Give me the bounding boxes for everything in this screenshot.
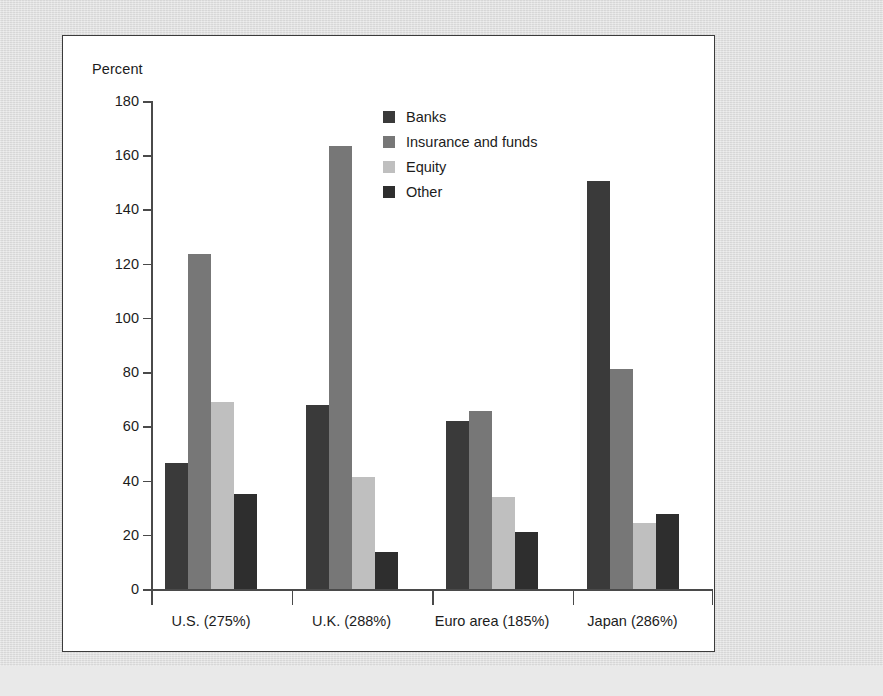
- bar-banks-0[interactable]: [165, 463, 188, 589]
- bar-group: [587, 101, 679, 589]
- y-axis-line: [151, 101, 153, 589]
- legend-label: Equity: [406, 159, 446, 175]
- x-axis-category-label: Euro area (185%): [435, 613, 549, 629]
- x-axis-separator-tick: [292, 590, 294, 605]
- bar-banks-3[interactable]: [587, 181, 610, 589]
- bar-other-2[interactable]: [515, 532, 538, 589]
- y-axis-tick-label: 40: [123, 473, 139, 489]
- bar-insurance-and-funds-2[interactable]: [469, 411, 492, 589]
- legend-swatch-icon: [383, 136, 395, 148]
- x-axis-separator-tick: [712, 590, 714, 605]
- x-axis-category-label: Japan (286%): [587, 613, 677, 629]
- y-axis-tick-mark: [143, 535, 151, 537]
- bar-group: [165, 101, 257, 589]
- y-axis-tick-mark: [143, 589, 151, 591]
- bar-banks-2[interactable]: [446, 421, 469, 589]
- legend-item[interactable]: Equity: [383, 154, 537, 179]
- legend-label: Other: [406, 184, 442, 200]
- bar-equity-2[interactable]: [492, 497, 515, 589]
- chart-legend: BanksInsurance and fundsEquityOther: [383, 104, 537, 204]
- bar-insurance-and-funds-3[interactable]: [610, 369, 633, 589]
- y-axis-tick-mark: [143, 372, 151, 374]
- bar-equity-3[interactable]: [633, 523, 656, 589]
- y-axis-tick-mark: [143, 155, 151, 157]
- x-axis-separator-tick: [573, 590, 575, 605]
- legend-label: Banks: [406, 109, 446, 125]
- y-axis-tick-mark: [143, 264, 151, 266]
- y-axis-tick-mark: [143, 209, 151, 211]
- legend-swatch-icon: [383, 161, 395, 173]
- bar-equity-1[interactable]: [352, 477, 375, 590]
- legend-label: Insurance and funds: [406, 134, 537, 150]
- legend-item[interactable]: Banks: [383, 104, 537, 129]
- y-axis-tick-mark: [143, 101, 151, 103]
- y-axis-tick-label: 140: [115, 201, 139, 217]
- bar-banks-1[interactable]: [306, 405, 329, 589]
- y-axis-tick-label: 80: [123, 364, 139, 380]
- y-axis-tick-label: 100: [115, 310, 139, 326]
- bar-other-1[interactable]: [375, 552, 398, 589]
- x-axis-category-label: U.S. (275%): [172, 613, 251, 629]
- y-axis-tick-label: 60: [123, 418, 139, 434]
- y-axis-tick-mark: [143, 318, 151, 320]
- bar-insurance-and-funds-0[interactable]: [188, 254, 211, 589]
- y-axis-tick-mark: [143, 481, 151, 483]
- bar-equity-0[interactable]: [211, 402, 234, 589]
- legend-swatch-icon: [383, 186, 395, 198]
- y-axis-tick-mark: [143, 426, 151, 428]
- bar-insurance-and-funds-1[interactable]: [329, 146, 352, 589]
- chart-panel: Percent 180160140120100806040200 U.S. (2…: [62, 35, 715, 652]
- y-axis-tick-label: 20: [123, 527, 139, 543]
- y-axis-tick-label: 180: [115, 93, 139, 109]
- y-axis-tick-label: 0: [131, 581, 139, 597]
- y-axis-tick-label: 120: [115, 256, 139, 272]
- bar-other-3[interactable]: [656, 514, 679, 589]
- x-axis-category-label: U.K. (288%): [312, 613, 391, 629]
- y-axis-tick-label: 160: [115, 147, 139, 163]
- legend-item[interactable]: Other: [383, 179, 537, 204]
- x-axis-separator-tick: [151, 590, 153, 605]
- legend-item[interactable]: Insurance and funds: [383, 129, 537, 154]
- y-axis-title: Percent: [92, 61, 143, 77]
- page-bottom-strip: [0, 666, 883, 696]
- x-axis-separator-tick: [432, 590, 434, 605]
- bar-other-0[interactable]: [234, 494, 257, 589]
- legend-swatch-icon: [383, 111, 395, 123]
